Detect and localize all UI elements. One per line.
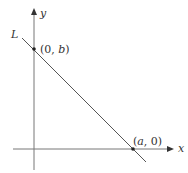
y-intercept-label: (0, b) [40, 43, 70, 56]
x-axis-arrow-icon [167, 146, 174, 152]
line-l-label: L [10, 28, 18, 41]
x-axis-label: x [178, 142, 185, 155]
y-axis-arrow-icon [31, 8, 37, 15]
line-l [22, 38, 146, 162]
y-intercept-point [32, 47, 36, 51]
x-intercept-label: (a, 0) [133, 135, 162, 148]
intercept-diagram: y x L (0, b) (a, 0) [0, 0, 188, 173]
y-axis-label: y [39, 7, 47, 20]
